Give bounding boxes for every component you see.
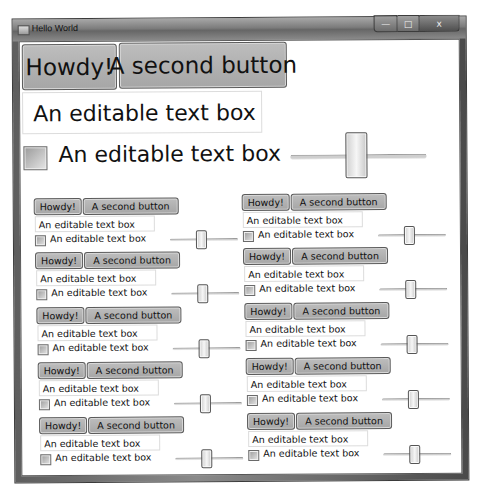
- checkbox-label[interactable]: An editable text box: [263, 447, 359, 459]
- howdy-button[interactable]: Howdy!: [36, 307, 84, 324]
- checkbox-label[interactable]: An editable text box: [53, 342, 149, 354]
- editable-text-box[interactable]: An editable text box: [247, 375, 367, 392]
- minimize-button[interactable]: —: [374, 15, 398, 32]
- howdy-button[interactable]: Howdy!: [247, 413, 295, 430]
- checkbox[interactable]: [23, 146, 47, 170]
- app-window: Hello World — □ x Howdy! A second button…: [12, 16, 470, 484]
- slider-thumb[interactable]: [345, 132, 367, 178]
- mini-control-set: Howdy! A second button An editable text …: [35, 251, 240, 304]
- checkbox[interactable]: [243, 231, 254, 242]
- checkbox[interactable]: [36, 289, 47, 300]
- editable-text-box[interactable]: An editable text box: [22, 91, 262, 134]
- editable-text-box[interactable]: An editable text box: [248, 430, 368, 447]
- maximize-icon: □: [404, 18, 413, 28]
- howdy-button[interactable]: Howdy!: [39, 417, 87, 434]
- slider-thumb[interactable]: [196, 230, 207, 249]
- mini-control-set: Howdy! A second button An editable text …: [247, 412, 452, 465]
- checkbox[interactable]: [40, 454, 51, 465]
- second-button[interactable]: A second button: [87, 361, 183, 379]
- slider-thumb[interactable]: [404, 226, 415, 245]
- minimize-icon: —: [381, 19, 390, 29]
- maximize-button[interactable]: □: [398, 15, 420, 32]
- editable-text-box[interactable]: An editable text box: [39, 380, 159, 397]
- window-title: Hello World: [32, 23, 78, 33]
- howdy-button[interactable]: Howdy!: [242, 194, 290, 211]
- checkbox[interactable]: [244, 285, 255, 296]
- howdy-button[interactable]: Howdy!: [38, 362, 86, 379]
- slider-thumb[interactable]: [407, 335, 418, 354]
- editable-text-box[interactable]: An editable text box: [244, 265, 364, 282]
- second-button[interactable]: A second button: [119, 42, 287, 89]
- howdy-button[interactable]: Howdy!: [34, 198, 82, 215]
- title-bar[interactable]: Hello World — □ x: [13, 17, 466, 42]
- second-button[interactable]: A second button: [88, 416, 184, 434]
- mini-control-set: Howdy! A second button An editable text …: [242, 193, 447, 246]
- second-button[interactable]: A second button: [291, 193, 387, 211]
- checkbox[interactable]: [38, 344, 49, 355]
- checkbox-label[interactable]: An editable text box: [259, 282, 355, 294]
- editable-text-box[interactable]: An editable text box: [243, 211, 363, 228]
- mini-control-set: Howdy! A second button An editable text …: [244, 302, 449, 355]
- checkbox-label[interactable]: An editable text box: [55, 452, 151, 464]
- checkbox-label[interactable]: An editable text box: [262, 392, 358, 404]
- second-button[interactable]: A second button: [84, 251, 180, 269]
- checkbox[interactable]: [248, 450, 259, 461]
- checkbox-label[interactable]: An editable text box: [51, 287, 147, 299]
- mini-control-set: Howdy! A second button An editable text …: [39, 416, 244, 469]
- app-icon: [18, 25, 30, 35]
- checkbox[interactable]: [247, 395, 258, 406]
- checkbox[interactable]: [39, 399, 50, 410]
- second-button[interactable]: A second button: [296, 412, 392, 430]
- slider-thumb[interactable]: [199, 339, 210, 358]
- checkbox-label[interactable]: An editable text box: [58, 141, 281, 167]
- checkbox[interactable]: [246, 340, 257, 351]
- howdy-button[interactable]: Howdy!: [35, 252, 83, 269]
- editable-text-box[interactable]: An editable text box: [40, 434, 160, 451]
- checkbox-label[interactable]: An editable text box: [261, 337, 357, 349]
- checkbox-label[interactable]: An editable text box: [50, 233, 146, 245]
- close-icon: x: [436, 18, 441, 28]
- slider-thumb[interactable]: [197, 284, 208, 303]
- howdy-button[interactable]: Howdy!: [244, 303, 292, 320]
- slider-thumb[interactable]: [409, 445, 420, 464]
- slider-thumb[interactable]: [200, 394, 211, 413]
- second-button[interactable]: A second button: [295, 357, 391, 375]
- editable-text-box[interactable]: An editable text box: [36, 270, 156, 287]
- checkbox[interactable]: [35, 235, 46, 246]
- checkbox-label[interactable]: An editable text box: [258, 228, 354, 240]
- mini-control-set: Howdy! A second button An editable text …: [34, 197, 239, 250]
- caption-buttons: — □ x: [374, 15, 460, 33]
- client-area: Howdy! A second button An editable text …: [19, 39, 463, 477]
- slider-thumb[interactable]: [408, 390, 419, 409]
- checkbox-label[interactable]: An editable text box: [54, 397, 150, 409]
- mini-control-set: Howdy! A second button An editable text …: [36, 306, 241, 359]
- howdy-button[interactable]: Howdy!: [246, 358, 294, 375]
- close-button[interactable]: x: [420, 15, 460, 32]
- second-button[interactable]: A second button: [83, 197, 179, 215]
- mini-control-set: Howdy! A second button An editable text …: [38, 361, 243, 414]
- mini-control-set: Howdy! A second button An editable text …: [243, 247, 448, 300]
- howdy-button[interactable]: Howdy!: [22, 44, 117, 91]
- second-button[interactable]: A second button: [292, 247, 388, 265]
- editable-text-box[interactable]: An editable text box: [245, 320, 365, 337]
- second-button[interactable]: A second button: [85, 306, 181, 324]
- slider-thumb[interactable]: [201, 449, 212, 468]
- howdy-button[interactable]: Howdy!: [243, 248, 291, 265]
- slider-thumb[interactable]: [405, 280, 416, 299]
- mini-control-set: Howdy! A second button An editable text …: [246, 357, 451, 410]
- editable-text-box[interactable]: An editable text box: [35, 216, 155, 233]
- second-button[interactable]: A second button: [293, 302, 389, 320]
- editable-text-box[interactable]: An editable text box: [37, 325, 157, 342]
